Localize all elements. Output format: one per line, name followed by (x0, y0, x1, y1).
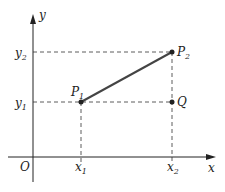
y-axis-arrow-icon (30, 14, 36, 24)
q-label: Q (177, 95, 187, 109)
y1-label: y1 (14, 96, 27, 112)
point-p2 (170, 50, 175, 55)
x-axis-arrow-icon (206, 154, 216, 160)
point-q (170, 100, 175, 105)
x-axis-label: x (208, 161, 215, 175)
y2-label: y2 (14, 46, 27, 62)
origin-label: O (20, 160, 30, 174)
distance-diagram: y x O y2 y1 x1 x2 P1 P2 Q (0, 0, 225, 192)
x1-label: x1 (75, 160, 87, 176)
p1-label: P1 (70, 85, 84, 101)
x2-label: x2 (167, 160, 179, 176)
y-axis-label: y (38, 8, 46, 22)
p2-label: P2 (176, 45, 190, 61)
segment-p1-p2 (81, 52, 172, 102)
